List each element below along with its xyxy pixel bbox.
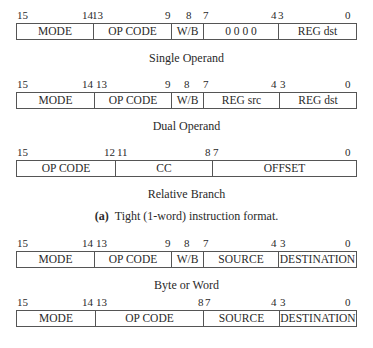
section-label: (a) <box>95 209 109 223</box>
field-w-b: W/B <box>171 93 203 108</box>
format-caption: Relative Branch <box>0 187 373 202</box>
bit-label: 0 <box>345 296 351 308</box>
instruction-word: MODEOP CODEW/B0 0 0 0REG dst <box>16 23 357 40</box>
field-cc: CC <box>115 161 212 176</box>
bit-label: 15 <box>17 9 28 21</box>
field-reg-dst: REG dst <box>278 24 356 39</box>
bit-label: 8 <box>184 237 190 249</box>
field-destination: DESTINATION <box>279 311 356 326</box>
instruction-word: MODEOP CODEW/BSOURCEDESTINATION <box>16 251 357 268</box>
bit-label: 7 <box>203 78 209 90</box>
bit-label: 8 <box>184 78 190 90</box>
field-0-0-0-0: 0 0 0 0 <box>203 24 278 39</box>
bit-label: 15 <box>17 237 28 249</box>
bit-label: 0 <box>345 9 351 21</box>
bit-label: 12 <box>104 146 115 158</box>
bit-label: 13 <box>96 78 107 90</box>
bit-label: 0 <box>345 146 351 158</box>
section-a-caption: (a) Tight (1-word) instruction format. <box>0 209 373 224</box>
field-destination: DESTINATION <box>278 252 356 267</box>
bit-label: 9 <box>165 78 171 90</box>
bit-label: 4 <box>271 296 277 308</box>
field-mode: MODE <box>17 24 93 39</box>
bit-label: 9 <box>165 237 171 249</box>
field-reg-dst: REG dst <box>279 93 356 108</box>
bit-label: 13 <box>96 296 107 308</box>
field-w-b: W/B <box>171 252 203 267</box>
format-caption: Single Operand <box>0 51 373 66</box>
bit-label: 0 <box>345 237 351 249</box>
bit-label: 8 <box>186 9 192 21</box>
field-mode: MODE <box>17 252 94 267</box>
bit-label: 13 <box>92 9 103 21</box>
field-op-code: OP CODE <box>94 93 171 108</box>
instruction-word: MODEOP CODEW/BREG srcREG dst <box>16 92 357 109</box>
section-text: Tight (1-word) instruction format. <box>109 209 279 223</box>
bit-label: 4 <box>271 78 277 90</box>
bit-label: 13 <box>96 237 107 249</box>
bit-label: 7 <box>213 146 219 158</box>
instruction-word: OP CODECCOFFSET <box>16 160 357 177</box>
bit-label: 8 <box>198 296 204 308</box>
bit-label: 14 <box>82 237 93 249</box>
bit-label: 3 <box>280 78 286 90</box>
bit-label: 14 <box>82 78 93 90</box>
field-op-code: OP CODE <box>95 311 203 326</box>
bit-label: 3 <box>280 296 286 308</box>
bit-label: 7 <box>205 296 211 308</box>
bit-label: 14 <box>82 296 93 308</box>
field-offset: OFFSET <box>212 161 356 176</box>
bit-label: 7 <box>203 237 209 249</box>
bit-label: 11 <box>117 146 128 158</box>
field-op-code: OP CODE <box>93 24 171 39</box>
bit-label: 4 <box>271 9 277 21</box>
bit-label: 9 <box>165 9 171 21</box>
field-mode: MODE <box>17 93 94 108</box>
bit-label: 7 <box>203 9 209 21</box>
bit-label: 0 <box>345 78 351 90</box>
bit-label: 4 <box>271 237 277 249</box>
bit-label: 3 <box>280 237 286 249</box>
instruction-word: MODEOP CODESOURCEDESTINATION <box>16 310 357 327</box>
field-source: SOURCE <box>203 252 278 267</box>
field-op-code: OP CODE <box>17 161 115 176</box>
field-mode: MODE <box>17 311 95 326</box>
bit-label: 8 <box>205 146 211 158</box>
field-w-b: W/B <box>171 24 203 39</box>
format-caption: Byte or Word <box>0 278 373 293</box>
field-op-code: OP CODE <box>94 252 171 267</box>
bit-label: 15 <box>17 78 28 90</box>
format-caption: Dual Operand <box>0 119 373 134</box>
bit-label: 3 <box>278 9 284 21</box>
bit-label: 15 <box>17 296 28 308</box>
field-source: SOURCE <box>203 311 279 326</box>
field-reg-src: REG src <box>203 93 279 108</box>
bit-label: 15 <box>17 146 28 158</box>
